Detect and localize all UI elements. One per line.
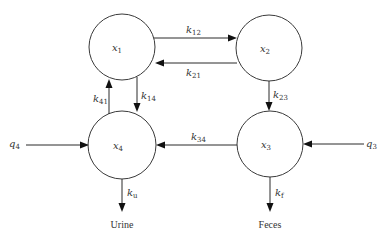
arrowhead-up-icon [106, 79, 113, 88]
edge-k34: k34 [156, 131, 237, 149]
rate-label-k21: k21 [186, 67, 201, 80]
edge-k41: k41 [93, 79, 113, 114]
rate-label-k23: k23 [273, 89, 288, 102]
edge-k12: k12 [154, 24, 237, 42]
arrowhead-down-icon [267, 203, 274, 212]
rate-label-k14: k14 [141, 90, 157, 103]
arrowhead-down-icon [119, 203, 126, 212]
input-q4: q4 [9, 138, 89, 151]
rate-label-k12: k12 [186, 24, 201, 37]
compartment-x3: x3 [237, 111, 303, 177]
rate-label-kf: kf [275, 187, 285, 200]
input-label-q3: q3 [366, 138, 377, 151]
compartment-x1: x1 [89, 14, 155, 80]
output-urine: ku Urine [111, 179, 138, 230]
compartment-diagram: x1 x2 x3 x4 k12 k21 k23 k34 k14 [0, 0, 389, 240]
rate-label-ku: ku [127, 187, 138, 200]
arrowhead-right-icon [228, 35, 237, 42]
output-label-urine: Urine [111, 219, 134, 230]
arrowhead-left-icon [155, 60, 164, 67]
edge-k23: k23 [266, 81, 288, 111]
compartment-x2: x2 [236, 15, 302, 81]
edge-k14: k14 [134, 77, 157, 112]
arrowhead-left-icon [303, 141, 312, 148]
rate-label-k41: k41 [93, 93, 108, 106]
input-label-q4: q4 [9, 138, 20, 151]
arrowhead-left-icon [156, 142, 165, 149]
input-q3: q3 [303, 138, 377, 151]
arrowhead-down-icon [134, 103, 141, 112]
edge-k21: k21 [155, 60, 237, 81]
rate-label-k34: k34 [191, 131, 207, 144]
compartment-x4: x4 [88, 111, 156, 179]
arrowhead-down-icon [266, 102, 273, 111]
output-label-feces: Feces [259, 219, 282, 230]
output-feces: kf Feces [259, 177, 285, 230]
